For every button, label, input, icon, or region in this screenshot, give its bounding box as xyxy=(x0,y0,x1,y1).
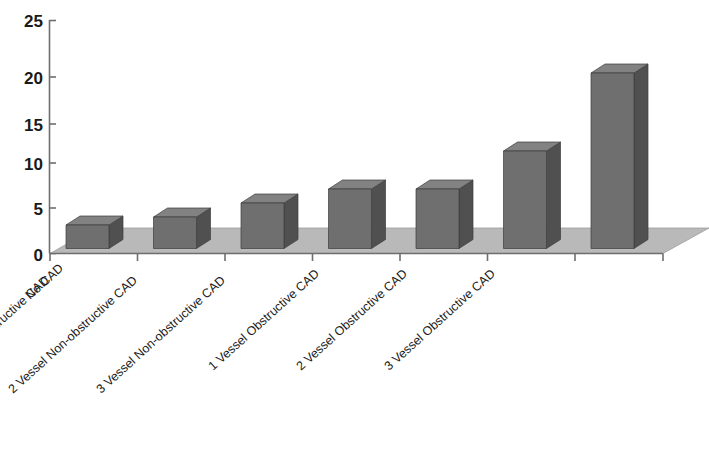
bar-1-vessel-non-obstructive-cad[interactable] xyxy=(154,208,211,249)
y-tick-label-5: 5 xyxy=(34,200,43,219)
bar-5-front xyxy=(504,151,547,249)
y-tick-label-20: 20 xyxy=(24,69,43,88)
bar-2-vessel-non-obstructive-cad[interactable] xyxy=(241,194,298,249)
y-tick-label-10: 10 xyxy=(24,155,43,174)
bar-5-side xyxy=(547,142,561,249)
y-tick-label-15: 15 xyxy=(24,116,43,135)
bar-6-side xyxy=(634,64,648,249)
bar-6-front xyxy=(591,73,634,249)
x-axis-category-labels: No CAD 1 Vessel Non-obstructive CAD 2 Ve… xyxy=(0,261,498,396)
bar-2-side xyxy=(284,194,298,249)
x-axis xyxy=(50,254,663,262)
y-axis xyxy=(50,20,57,254)
bar-1-front xyxy=(154,217,197,249)
bar-4-front xyxy=(416,189,459,249)
y-tick-label-0: 0 xyxy=(34,246,43,265)
bar-3-vessel-obstructive-cad[interactable] xyxy=(591,64,648,249)
y-tick-label-25: 25 xyxy=(24,12,43,31)
bar-0-front xyxy=(66,225,109,249)
bar-2-vessel-obstructive-cad[interactable] xyxy=(504,142,561,249)
bar-3-side xyxy=(372,180,386,249)
bar-3-front xyxy=(329,189,372,249)
chart-canvas: 25 20 15 10 5 0 xyxy=(0,0,709,468)
bar-chart-figure: 25 20 15 10 5 0 xyxy=(0,0,709,468)
bar-2-front xyxy=(241,203,284,249)
bar-no-cad[interactable] xyxy=(66,216,123,249)
y-axis-tick-labels: 25 20 15 10 5 0 xyxy=(24,12,43,265)
bar-1-vessel-obstructive-cad[interactable] xyxy=(416,180,473,249)
bar-4-side xyxy=(459,180,473,249)
bar-3-vessel-non-obstructive-cad[interactable] xyxy=(329,180,386,249)
